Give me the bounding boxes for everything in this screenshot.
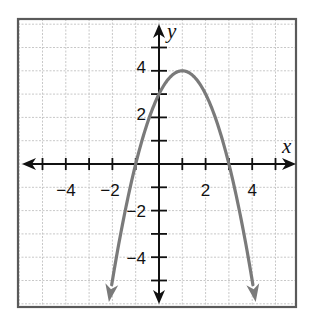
x-tick-label-2: 2 — [201, 181, 210, 200]
x-tick-label-neg4: −4 — [56, 181, 75, 200]
y-tick-label-neg2: −2 — [127, 202, 146, 221]
y-tick-label-2: 2 — [137, 105, 146, 124]
y-tick-label-4: 4 — [137, 58, 146, 77]
x-tick-label-4: 4 — [247, 181, 256, 200]
y-tick-label-neg4: −4 — [127, 249, 146, 268]
x-tick-label-neg2: −2 — [100, 181, 119, 200]
parabola-graph: −4 −2 2 4 4 2 −2 −4 x y — [0, 0, 310, 322]
x-axis-label: x — [281, 134, 292, 158]
axes — [22, 24, 296, 304]
y-axis-label: y — [165, 19, 177, 43]
